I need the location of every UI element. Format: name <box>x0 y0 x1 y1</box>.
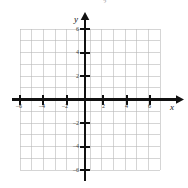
y-axis-arrowhead <box>81 12 90 20</box>
x-tick-label-neg2: –2 <box>62 103 68 109</box>
x-axis-arrowhead <box>176 95 184 104</box>
coordinate-plane-figure: 2 –6 –4 –2 2 4 6 6 4 2 –2 –4 –6 y x <box>0 0 188 188</box>
x-tick-label-neg6: –6 <box>16 103 22 109</box>
coordinate-plane-svg <box>0 0 188 188</box>
y-tick-label-neg2: –2 <box>73 120 79 126</box>
x-tick-label-neg4: –4 <box>39 103 45 109</box>
x-tick-label-6: 6 <box>148 103 151 109</box>
y-tick-label-6: 6 <box>76 26 79 32</box>
y-tick-label-4: 4 <box>76 49 79 55</box>
y-tick-label-neg4: –4 <box>73 143 79 149</box>
x-tick-label-2: 2 <box>102 103 105 109</box>
y-tick-label-2: 2 <box>76 73 79 79</box>
x-tick-label-4: 4 <box>125 103 128 109</box>
top-clipped-artifact: 2 <box>103 0 107 3</box>
x-axis-label: x <box>170 103 174 112</box>
y-tick-label-neg6: –6 <box>73 167 79 173</box>
y-axis-label: y <box>74 15 78 24</box>
